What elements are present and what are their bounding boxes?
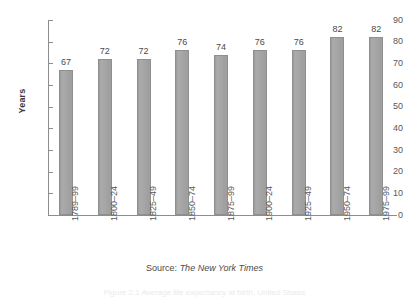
x-axis-tick-label: 1789–99 [71, 161, 80, 221]
x-axis-tick-label: 1925–49 [304, 161, 313, 221]
bar-value-label: 76 [242, 38, 278, 47]
source-label: Source: [146, 263, 177, 273]
x-axis-tick-label: 1975–99 [382, 161, 391, 221]
x-axis-tick-label: 1850–74 [188, 161, 197, 221]
bar-value-label: 76 [281, 38, 317, 47]
bar-value-label: 82 [319, 25, 355, 34]
bar-chart: Years 9080706050403020100 67727276747676… [0, 0, 409, 297]
bar-value-label: 72 [126, 47, 162, 56]
bar-value-label: 74 [203, 43, 239, 52]
x-axis-tick-label: 1950–74 [343, 161, 352, 221]
x-axis-tick-label: 1875–99 [227, 161, 236, 221]
bar-value-label: 67 [48, 58, 84, 67]
source-name: The New York Times [180, 263, 263, 273]
bar-value-label: 72 [87, 47, 123, 56]
x-axis-tick-label: 1900–24 [265, 161, 274, 221]
source-note: Source: The New York Times [0, 263, 409, 273]
y-axis-title: Years [17, 74, 27, 128]
x-axis-tick-label: 1825–49 [149, 161, 158, 221]
x-axis-tick-label: 1800–24 [110, 161, 119, 221]
bar-value-label: 76 [164, 38, 200, 47]
caption-fragment: Figure 2.1 Average life expectancy at bi… [0, 288, 409, 297]
bar-value-label: 82 [358, 25, 394, 34]
